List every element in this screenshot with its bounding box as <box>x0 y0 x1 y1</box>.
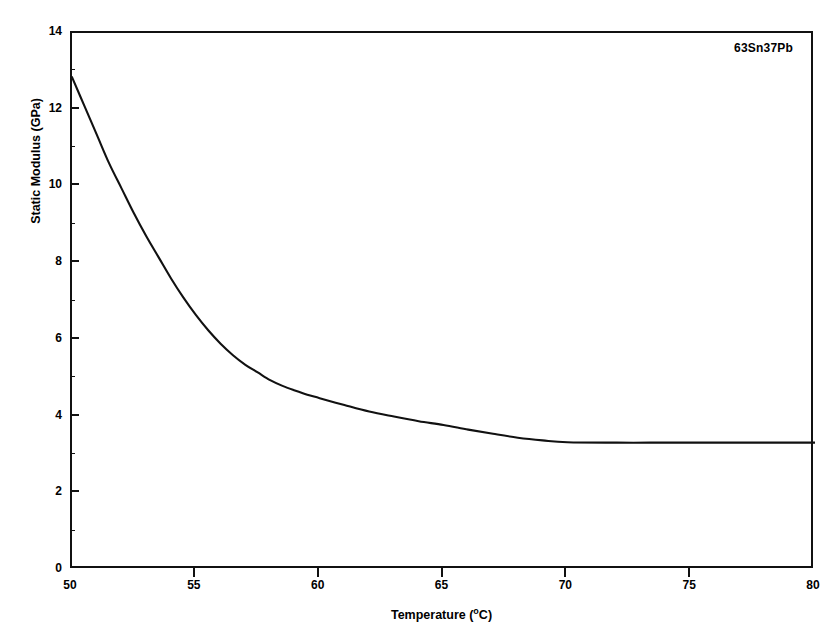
x-tick-label-80: 80 <box>806 578 819 592</box>
x-tick-mark-55 <box>193 568 195 577</box>
x-tick-label-60: 60 <box>311 578 324 592</box>
y-tick-minor-11 <box>70 146 75 147</box>
y-tick-minor-5 <box>70 376 75 377</box>
figure-canvas: 02468101214 Static Modulus (GPa) 63Sn37P… <box>0 0 836 634</box>
y-tick-mark-4 <box>70 414 79 416</box>
y-tick-label-12: 12 <box>49 101 62 115</box>
y-tick-label-2: 2 <box>55 484 62 498</box>
y-tick-label-6: 6 <box>55 331 62 345</box>
x-axis-title-main: Temperature ( <box>391 608 473 622</box>
y-tick-minor-13 <box>70 69 75 70</box>
x-tick-label-75: 75 <box>682 578 695 592</box>
x-tick-mark-60 <box>317 568 319 577</box>
y-tick-mark-8 <box>70 260 79 262</box>
y-tick-label-14: 14 <box>49 24 62 38</box>
y-tick-label-0: 0 <box>55 561 62 575</box>
y-tick-minor-1 <box>70 530 75 531</box>
series-line-63sn37pb <box>72 77 815 443</box>
x-axis-title-tail: C) <box>479 608 492 622</box>
data-curve-svg <box>72 33 815 570</box>
x-tick-mark-65 <box>441 568 443 577</box>
y-tick-mark-2 <box>70 490 79 492</box>
x-tick-label-50: 50 <box>63 578 76 592</box>
series-annotation-label: 63Sn37Pb <box>734 41 793 55</box>
y-axis-title: Static Modulus (GPa) <box>29 31 43 291</box>
y-tick-mark-10 <box>70 183 79 185</box>
plot-area: 63Sn37Pb <box>70 31 813 568</box>
y-tick-mark-12 <box>70 107 79 109</box>
y-tick-mark-6 <box>70 337 79 339</box>
y-tick-minor-3 <box>70 453 75 454</box>
y-tick-minor-9 <box>70 223 75 224</box>
x-tick-mark-75 <box>688 568 690 577</box>
x-tick-label-65: 65 <box>435 578 448 592</box>
x-axis-tick-labels: 50556065707580 <box>70 578 813 598</box>
y-tick-label-4: 4 <box>55 408 62 422</box>
y-tick-minor-7 <box>70 300 75 301</box>
y-tick-label-10: 10 <box>49 177 62 191</box>
x-axis-title: Temperature (oC) <box>70 606 813 622</box>
x-tick-label-55: 55 <box>187 578 200 592</box>
x-tick-mark-70 <box>564 568 566 577</box>
x-tick-label-70: 70 <box>559 578 572 592</box>
y-tick-label-8: 8 <box>55 254 62 268</box>
